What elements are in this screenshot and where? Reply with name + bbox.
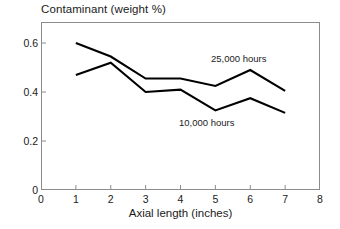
y-tick-label: 0.6 [8, 37, 38, 49]
y-tick-label: 0.4 [8, 86, 38, 98]
chart-title: Contaminant (weight %) [41, 3, 166, 15]
x-tick-label: 0 [31, 193, 51, 205]
x-tick-label: 5 [205, 193, 225, 205]
x-axis-ticks [76, 185, 285, 190]
x-tick-label: 4 [171, 193, 191, 205]
x-tick-label: 2 [101, 193, 121, 205]
y-tick-label: 0.2 [8, 135, 38, 147]
contaminant-line-chart: Contaminant (weight %) 00.20.40.6 012345… [0, 0, 340, 229]
x-tick-label: 6 [240, 193, 260, 205]
x-tick-label: 1 [66, 193, 86, 205]
series-label-10000-hours: 10,000 hours [179, 117, 234, 128]
plot-svg [41, 22, 320, 190]
x-tick-label: 3 [136, 193, 156, 205]
series-label-25000-hours: 25,000 hours [211, 53, 266, 64]
x-axis-title: Axial length (inches) [41, 207, 320, 219]
series-line-2 [76, 63, 285, 113]
x-tick-label: 7 [275, 193, 295, 205]
series-line-1 [76, 43, 285, 91]
y-axis-ticks [41, 43, 46, 141]
x-tick-label: 8 [310, 193, 330, 205]
